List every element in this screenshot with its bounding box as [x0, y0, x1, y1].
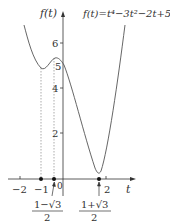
- critical-point-left: [52, 177, 56, 181]
- frac-right-numerator: 1+√3: [81, 199, 108, 210]
- formula-label: f(t)=t⁴−3t²−2t+5: [82, 8, 170, 19]
- function-graph: f(t) f(t)=t⁴−3t²−2t+5 6 5 4 2 −2 −1 0 2 …: [0, 0, 170, 224]
- y-tick-2: 2: [52, 128, 58, 139]
- y-tick-6: 6: [52, 38, 58, 49]
- f-axis-arrow-icon: [61, 11, 65, 17]
- t-axis-arrow-icon: [130, 177, 136, 181]
- x-tick-2: 2: [104, 184, 110, 195]
- x-tick-minus-1: −1: [34, 184, 49, 195]
- critical-point-right: [97, 177, 101, 181]
- frac-right-denominator: 2: [91, 212, 97, 223]
- y-tick-5: 5: [55, 61, 61, 72]
- y-ticks: [60, 43, 63, 133]
- frac-left-numerator: 1−√3: [34, 199, 61, 210]
- y-axis-label: f(t): [39, 7, 57, 20]
- y-tick-4: 4: [52, 83, 58, 94]
- function-curve: [24, 25, 125, 173]
- frac-left-denominator: 2: [44, 212, 50, 223]
- critical-point-minus-one: [39, 177, 43, 181]
- x-tick-0: 0: [57, 181, 63, 191]
- x-axis-label: t: [126, 183, 131, 196]
- x-tick-minus-2: −2: [12, 184, 27, 195]
- dashed-guides: [41, 58, 54, 179]
